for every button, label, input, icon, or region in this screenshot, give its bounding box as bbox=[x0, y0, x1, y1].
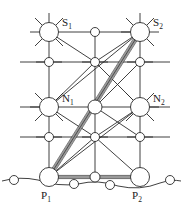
atom-small-r4b bbox=[91, 133, 100, 142]
lattice-diagram: S1 S2 N1 N2 P1 P2 bbox=[0, 0, 183, 204]
atom-small-bottom-center bbox=[90, 172, 100, 182]
atom-small-top-center bbox=[91, 28, 100, 37]
atom-small-r2c bbox=[136, 58, 145, 67]
label-n2-sub: 2 bbox=[161, 98, 165, 107]
label-n1-sub: 1 bbox=[70, 98, 74, 107]
atom-small-r2b bbox=[91, 58, 100, 67]
label-p1-sub: 1 bbox=[47, 195, 51, 204]
atom-surface-right bbox=[166, 176, 175, 185]
atom-surface-mid-right bbox=[106, 181, 115, 190]
label-p1: P1 bbox=[41, 189, 51, 204]
label-s1: S1 bbox=[62, 16, 72, 31]
atom-small-r4a bbox=[45, 133, 54, 142]
atom-small-r4c bbox=[136, 133, 145, 142]
label-n1: N1 bbox=[62, 92, 74, 107]
label-s2: S2 bbox=[153, 16, 163, 31]
diagram-root: S1 S2 N1 N2 P1 P2 bbox=[0, 0, 183, 204]
atom-large-n1 bbox=[40, 98, 59, 117]
atom-large-p1 bbox=[40, 168, 59, 187]
label-n2-base: N bbox=[153, 92, 161, 104]
label-p2: P2 bbox=[132, 189, 142, 204]
atom-medium-center bbox=[88, 100, 102, 114]
label-s1-sub: 1 bbox=[68, 22, 72, 31]
bond-long-diagonal-2 bbox=[49, 107, 140, 177]
atom-surface-mid-left bbox=[70, 180, 79, 189]
atom-large-p2 bbox=[131, 168, 150, 187]
label-n2: N2 bbox=[153, 92, 165, 107]
atom-large-n2 bbox=[131, 98, 150, 117]
atom-large-s1 bbox=[40, 23, 59, 42]
label-n1-base: N bbox=[62, 92, 70, 104]
atom-large-s2 bbox=[131, 23, 150, 42]
label-s2-sub: 2 bbox=[159, 22, 163, 31]
atom-surface-left bbox=[10, 176, 19, 185]
label-p2-sub: 2 bbox=[138, 195, 142, 204]
atom-group bbox=[10, 23, 175, 190]
atom-small-r2a bbox=[45, 58, 54, 67]
